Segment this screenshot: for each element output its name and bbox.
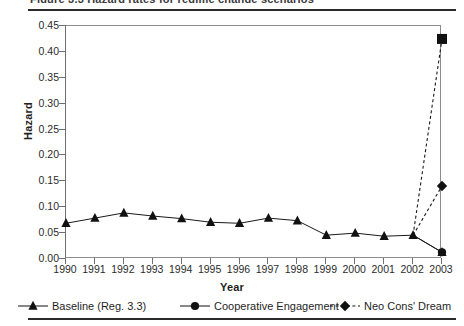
plot-svg	[66, 26, 442, 259]
y-tick-label: 0.25	[25, 124, 59, 135]
data-point-triangle	[119, 208, 128, 217]
legend-key-triangle-icon	[18, 299, 48, 313]
figure-container: Figure 3.3 Hazard rates for regime chang…	[0, 0, 464, 326]
y-tick-mark	[59, 51, 65, 52]
data-point-triangle	[408, 230, 417, 239]
plot-area	[65, 25, 441, 258]
series-line	[66, 213, 442, 252]
data-point-square	[437, 34, 447, 44]
chart-legend: Baseline (Reg. 3.3)Cooperative Engagemen…	[0, 298, 464, 314]
data-point-diamond	[437, 181, 447, 191]
legend-label: Cooperative Engagement	[214, 299, 339, 313]
data-point-triangle	[28, 301, 37, 310]
y-tick-mark	[59, 206, 65, 207]
data-point-triangle	[351, 228, 360, 237]
y-tick-label: 0.35	[25, 72, 59, 83]
legend-item[interactable]: Neo Cons' Dream	[330, 298, 451, 314]
y-tick-mark	[59, 25, 65, 26]
y-tick-mark	[59, 103, 65, 104]
legend-label: Baseline (Reg. 3.3)	[52, 299, 146, 313]
legend-key-circle-icon	[180, 299, 210, 313]
y-tick-mark	[59, 129, 65, 130]
legend-key-diamond-icon	[330, 299, 360, 313]
legend-item[interactable]: Cooperative Engagement	[180, 298, 339, 314]
y-tick-mark	[59, 180, 65, 181]
y-tick-mark	[59, 258, 65, 259]
data-point-diamond	[340, 301, 350, 311]
data-point-circle	[191, 302, 199, 310]
y-tick-label: 0.15	[25, 175, 59, 186]
y-tick-label: 0.10	[25, 201, 59, 212]
x-tick-label: 2003	[421, 264, 461, 275]
y-tick-mark	[59, 154, 65, 155]
y-tick-label: 0.30	[25, 98, 59, 109]
bottom-divider	[28, 318, 456, 320]
x-axis-tick-labels: 1990199119921993199419951996199719981999…	[0, 264, 464, 278]
legend-item[interactable]: Baseline (Reg. 3.3)	[18, 298, 146, 314]
y-tick-label: 0.20	[25, 149, 59, 160]
y-tick-label: 0.00	[25, 253, 59, 264]
y-tick-label: 0.40	[25, 46, 59, 57]
data-point-circle	[438, 248, 446, 256]
series-line	[413, 39, 442, 235]
y-tick-label: 0.45	[25, 20, 59, 31]
y-tick-mark	[59, 77, 65, 78]
top-divider	[28, 9, 456, 11]
data-point-triangle	[264, 213, 273, 222]
x-axis-label: Year	[0, 281, 464, 293]
series-line	[413, 186, 442, 235]
y-tick-label: 0.05	[25, 227, 59, 238]
series-line	[413, 235, 442, 252]
y-axis-tick-labels: 0.450.400.350.300.250.200.150.100.050.00	[19, 25, 59, 258]
legend-label: Neo Cons' Dream	[364, 299, 451, 313]
figure-caption-sliver: Figure 3.3 Hazard rates for regime chang…	[30, 0, 450, 3]
y-tick-mark	[59, 232, 65, 233]
